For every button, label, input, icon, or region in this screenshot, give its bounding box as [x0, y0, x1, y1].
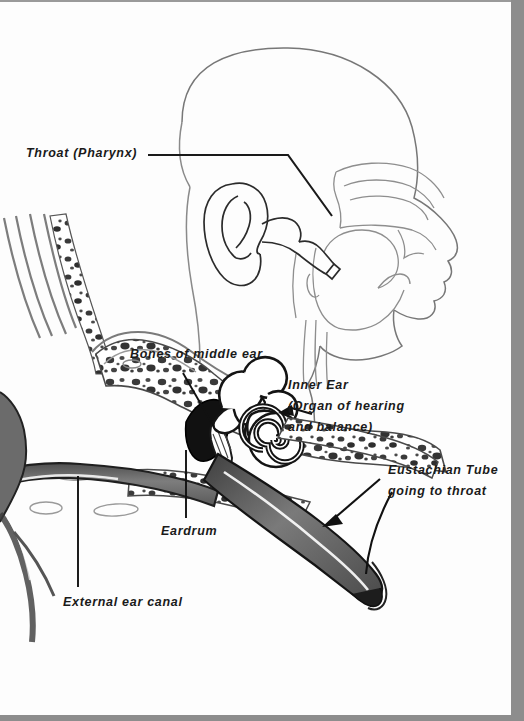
label-inner-ear-line2: (Organ of hearing [288, 398, 405, 415]
neck-back [186, 187, 200, 362]
jaw-outline [320, 310, 402, 360]
pinna-outer-ear [204, 183, 268, 285]
label-inner-ear-line1: Inner Ear [288, 377, 349, 394]
air-cell-c [94, 503, 139, 517]
throat-leader-line [148, 155, 332, 216]
eustachian-arrow [330, 479, 380, 522]
label-inner-ear-line3: and balance) [288, 419, 373, 436]
nasal-cavity-outline [334, 163, 444, 258]
frame-right-edge [511, 0, 524, 721]
air-cell-d [30, 502, 62, 514]
eustachian-arrowhead [322, 514, 343, 527]
label-eustachian-line1: Eustachian Tube [388, 462, 498, 479]
frame-top-edge [0, 0, 524, 2]
pinna-cartilage-stub [0, 392, 26, 522]
label-eardrum: Eardrum [161, 523, 217, 540]
head-eustachian-tube [262, 218, 340, 279]
pharynx-outline [293, 230, 410, 390]
label-throat: Throat (Pharynx) [26, 145, 137, 162]
eustachian-curve [366, 492, 392, 574]
frame-bottom-edge [0, 715, 524, 721]
label-external-ear-canal: External ear canal [63, 594, 183, 611]
figure-page: Throat (Pharynx) Bones of middle ear Inn… [0, 2, 511, 715]
label-bones-of-middle-ear: Bones of middle ear [130, 346, 263, 363]
label-eustachian-line2: going to throat [388, 483, 487, 500]
